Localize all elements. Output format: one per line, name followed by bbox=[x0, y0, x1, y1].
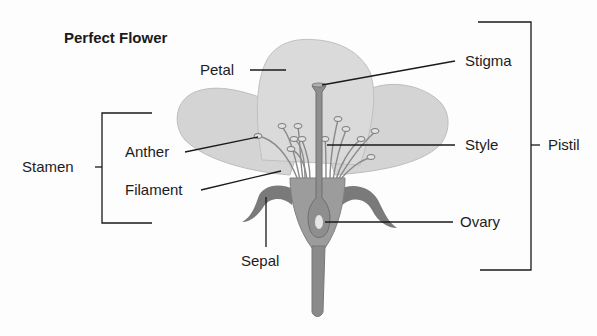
label-stamen: Stamen bbox=[22, 158, 74, 175]
center-petal bbox=[257, 39, 373, 165]
label-filament: Filament bbox=[125, 181, 183, 198]
label-stigma: Stigma bbox=[465, 52, 512, 69]
label-anther: Anther bbox=[125, 143, 169, 160]
ovule bbox=[315, 215, 323, 229]
left-sepal bbox=[242, 186, 295, 222]
label-style: Style bbox=[465, 136, 498, 153]
stem bbox=[312, 246, 325, 317]
label-petal: Petal bbox=[200, 61, 234, 78]
perfect-flower-diagram: Perfect Flower Petal Stigma Style Pistil… bbox=[0, 0, 597, 336]
label-sepal: Sepal bbox=[241, 252, 279, 269]
stamen-bracket bbox=[102, 113, 152, 223]
label-pistil: Pistil bbox=[548, 136, 580, 153]
label-ovary: Ovary bbox=[460, 213, 500, 230]
diagram-title: Perfect Flower bbox=[64, 29, 167, 46]
flower-illustration bbox=[0, 0, 597, 336]
